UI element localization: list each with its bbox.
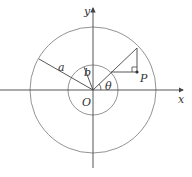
outer-radius-label: a [58, 61, 65, 74]
y-axis-label: y [83, 5, 91, 18]
angle-arc [99, 84, 101, 90]
point-p [135, 70, 138, 73]
angle-ray [93, 48, 137, 90]
ellipse-construction-diagram: y x O a b θ P [0, 0, 192, 177]
origin-label: O [82, 96, 91, 109]
x-axis-label: x [178, 93, 185, 106]
point-label: P [139, 72, 148, 85]
inner-radius-label: b [84, 66, 91, 79]
angle-label: θ [105, 80, 112, 93]
